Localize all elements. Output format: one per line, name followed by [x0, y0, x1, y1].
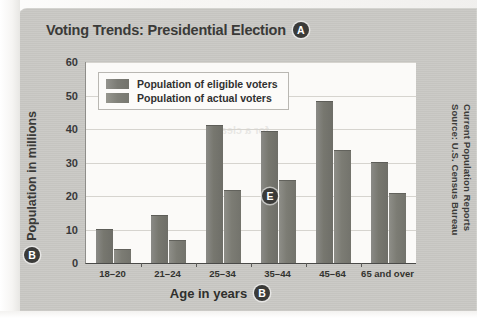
x-axis-tick-label: 45–64: [305, 268, 360, 279]
y-axis-tick-label: 60: [50, 56, 78, 68]
bar: [279, 180, 296, 263]
x-axis-tick: [141, 263, 142, 267]
x-axis-tick: [306, 263, 307, 267]
chart-page: Voting Trends: Presidential Election A B…: [0, 0, 477, 318]
bar-group: [306, 62, 361, 263]
y-axis-title: Population in millions: [25, 111, 39, 241]
y-axis-tick-label: 40: [50, 123, 78, 135]
y-axis-tick-label: 10: [50, 224, 78, 236]
legend-item: Population of actual voters: [106, 92, 278, 104]
y-axis-title-group: B Population in millions: [21, 62, 43, 263]
source-note: Source: U.S. Census Bureau Current Popul…: [450, 104, 473, 279]
y-axis-marker-b: B: [24, 247, 40, 263]
chart-legend: Population of eligible votersPopulation …: [98, 72, 289, 110]
x-axis-tick: [361, 263, 362, 267]
x-axis-tick: [251, 263, 252, 267]
x-axis-tick: [196, 263, 197, 267]
source-line-1: Source: U.S. Census Bureau: [450, 104, 461, 279]
bar-group: [361, 62, 416, 263]
bar: [169, 240, 186, 263]
x-axis-title: Age in years: [170, 286, 247, 301]
page-edge-left: [0, 0, 20, 318]
title-marker-a: A: [293, 22, 309, 38]
legend-item: Population of eligible voters: [106, 78, 278, 90]
bar: [114, 249, 131, 263]
y-axis-tick-label: 20: [50, 190, 78, 202]
x-axis-tick-label: 18–20: [85, 268, 140, 279]
x-axis-title-group: Age in years B: [0, 285, 440, 301]
y-axis-tick-label: 30: [50, 157, 78, 169]
bar: [206, 125, 223, 263]
x-axis-marker-b: B: [254, 285, 270, 301]
y-axis-tick-label: 0: [50, 257, 78, 269]
x-axis-tick-label: 25–34: [195, 268, 250, 279]
legend-swatch: [106, 79, 129, 89]
legend-label: Population of actual voters: [137, 92, 272, 104]
y-axis-tick-label: 50: [50, 90, 78, 102]
bar: [389, 193, 406, 263]
legend-swatch: [106, 93, 129, 103]
chart-title-row: Voting Trends: Presidential Election A: [46, 22, 309, 38]
bar: [371, 162, 388, 264]
page-title: Voting Trends: Presidential Election: [46, 22, 286, 38]
x-axis-tick-label: 65 and over: [360, 268, 415, 279]
legend-label: Population of eligible voters: [137, 78, 278, 90]
bar: [334, 150, 351, 263]
source-line-2: Current Population Reports: [462, 104, 473, 279]
x-axis-tick-labels: 18–2021–2425–3435–4445–6465 and over: [85, 268, 415, 279]
page-edge-bottom: [0, 311, 477, 318]
plot-marker-e: E: [262, 188, 278, 204]
x-axis-tick-label: 35–44: [250, 268, 305, 279]
bar: [151, 215, 168, 263]
bar: [316, 101, 333, 263]
y-axis-ticks: 0102030405060: [48, 62, 78, 263]
x-axis-tick-label: 21–24: [140, 268, 195, 279]
bar: [96, 229, 113, 264]
bar: [224, 190, 241, 263]
